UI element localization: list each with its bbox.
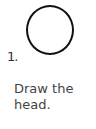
instruction-line-1: Draw the: [14, 81, 94, 97]
step-instruction: Draw the head.: [14, 81, 94, 113]
instruction-line-2: head.: [14, 97, 94, 113]
step-number: 1.: [7, 49, 17, 64]
head-circle-drawing: [26, 5, 74, 55]
